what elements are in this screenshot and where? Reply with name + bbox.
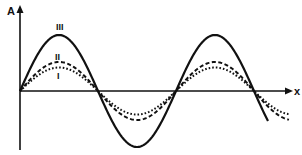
curve-iii-label: III — [56, 22, 64, 32]
curve-i-label: I — [57, 71, 60, 81]
x-axis-label: x — [294, 85, 301, 97]
curve-ii-label: II — [55, 52, 60, 62]
y-axis-label: A — [7, 5, 15, 17]
wave-diagram: A x III II I — [0, 0, 302, 155]
x-axis-arrow-icon — [285, 88, 293, 95]
y-axis-arrow-icon — [17, 5, 24, 13]
